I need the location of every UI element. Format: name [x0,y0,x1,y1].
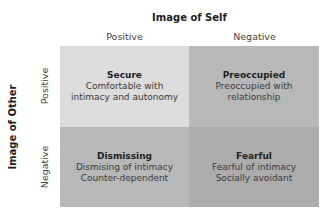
quadrant-title: Secure [107,70,142,81]
y-axis-title: Image of Other [7,84,18,169]
quadrant-secure: Secure Comfortable with intimacy and aut… [60,46,189,127]
quadrant-title: Fearful [236,151,272,162]
y-label-positive: Positive [39,68,50,105]
x-axis-title: Image of Self [60,12,319,23]
quadrant-preoccupied: Preoccupied Preoccupied with relationshi… [189,46,319,127]
quadrant-desc: Preoccupied with [216,81,293,92]
x-label-negative: Negative [190,31,319,42]
y-label-negative: Negative [39,146,50,189]
attachment-grid: Secure Comfortable with intimacy and aut… [60,46,319,207]
quadrant-fearful: Fearful Fearful of intimacy Socially avo… [189,127,319,207]
quadrant-desc: Comfortable with [86,81,164,92]
quadrant-dismissing: Dismissing Dismising of intimacy Counter… [60,127,189,207]
quadrant-desc: intimacy and autonomy [71,92,178,103]
quadrant-desc: relationship [228,92,281,103]
quadrant-desc: Socially avoidant [216,173,293,184]
quadrant-title: Preoccupied [223,70,285,81]
quadrant-desc: Counter-dependent [81,173,168,184]
quadrant-desc: Fearful of intimacy [212,162,296,173]
quadrant-desc: Dismising of intimacy [76,162,173,173]
x-label-positive: Positive [60,31,189,42]
quadrant-title: Dismissing [97,151,152,162]
